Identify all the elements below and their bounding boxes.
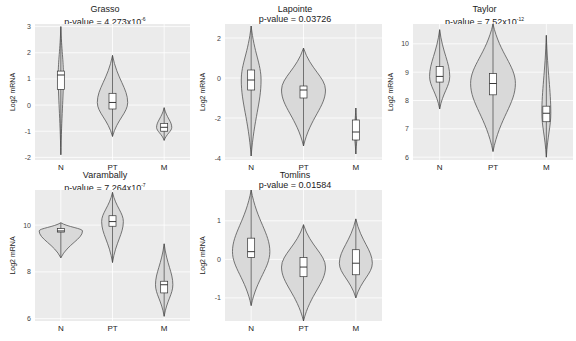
y-tick-label: -2 <box>25 154 31 161</box>
y-tick-label: 0 <box>27 102 31 109</box>
y-tick-label: 3 <box>27 23 31 30</box>
plot: -4-202Log2 mRNANPTM <box>190 0 385 170</box>
box <box>543 106 550 122</box>
panel-taylor: Taylorp-value = 7.52x10-12 678910Log2 mR… <box>378 0 576 170</box>
panel-lapointe: Lapointep-value = 0.03726 -4-202Log2 mRN… <box>190 0 385 170</box>
y-tick-label: 6 <box>27 315 31 322</box>
box <box>109 93 116 109</box>
x-tick-label: M <box>543 163 550 170</box>
panel-grasso: Grassop-value = 4.273x10-6 -2-10123Log2 … <box>0 0 195 170</box>
y-tick-label: 9 <box>405 69 409 76</box>
x-tick-label: PT <box>107 324 117 333</box>
y-tick-label: -4 <box>215 155 221 162</box>
box <box>57 71 64 89</box>
x-tick-label: PT <box>298 324 308 333</box>
y-axis-label: Log2 mRNA <box>9 236 17 274</box>
y-tick-label: 8 <box>27 268 31 275</box>
box <box>300 86 307 98</box>
plot: 678910Log2 mRNANPTM <box>378 0 576 170</box>
x-tick-label: N <box>58 324 64 333</box>
box <box>490 74 497 95</box>
plot: -101Log2 mRNANPTM <box>190 166 385 341</box>
box <box>352 250 359 275</box>
y-tick-label: 1 <box>217 217 221 224</box>
y-axis-label: Log2 mRNA <box>199 73 207 111</box>
y-tick-label: 7 <box>405 125 409 132</box>
y-tick-label: 2 <box>27 49 31 56</box>
y-tick-label: 0 <box>217 256 221 263</box>
x-tick-label: M <box>161 324 168 333</box>
y-tick-label: 2 <box>217 35 221 42</box>
y-axis-label: Log2 mRNA <box>9 73 17 111</box>
box <box>57 229 64 233</box>
box <box>352 120 359 140</box>
panel-tomlins: Tomlinsp-value = 0.01584 -101Log2 mRNANP… <box>190 166 385 341</box>
y-tick-label: -1 <box>25 128 31 135</box>
plot: 6810Log2 mRNANPTM <box>0 166 195 341</box>
y-tick-label: 8 <box>405 97 409 104</box>
box <box>161 281 168 293</box>
x-tick-label: N <box>248 324 254 333</box>
y-tick-label: 0 <box>217 75 221 82</box>
y-tick-label: 1 <box>27 75 31 82</box>
y-tick-label: 10 <box>401 40 409 47</box>
x-tick-label: M <box>352 324 359 333</box>
box <box>248 238 255 257</box>
box <box>436 67 443 83</box>
x-tick-label: N <box>437 163 443 170</box>
y-tick-label: -1 <box>215 294 221 301</box>
y-axis-label: Log2 mRNA <box>387 73 395 111</box>
y-axis-label: Log2 mRNA <box>199 236 207 274</box>
y-tick-label: 6 <box>405 154 409 161</box>
x-tick-label: PT <box>488 163 498 170</box>
plot: -2-10123Log2 mRNANPTM <box>0 0 195 170</box>
panel-varambally: Varamballyp-value = 7.264x10-7 6810Log2 … <box>0 166 195 341</box>
y-tick-label: 10 <box>23 222 31 229</box>
y-tick-label: -2 <box>215 115 221 122</box>
box <box>109 216 116 227</box>
